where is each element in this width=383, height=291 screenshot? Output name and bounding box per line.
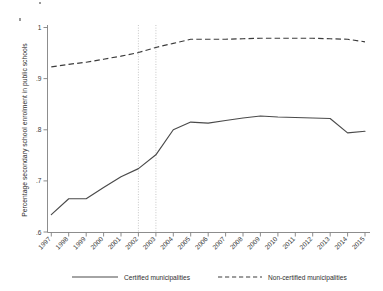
x-tick-label-2010: 2010 [263,235,279,251]
x-tick-label-2006: 2006 [194,235,210,251]
scan-artifact [19,18,21,21]
x-tick-label-2003: 2003 [141,235,157,251]
x-tick-label-2008: 2008 [228,235,244,251]
series-line-non-certified [51,38,365,67]
y-axis-title: Percentage secondary school enrolment in… [21,43,29,217]
x-tick-label-2001: 2001 [106,235,122,251]
x-tick-label-2015: 2015 [350,235,366,251]
x-tick-label-2014: 2014 [333,235,349,251]
x-tick-label-2005: 2005 [176,235,192,251]
y-tick-label-07: .7 [36,177,42,184]
y-tick-label-08: .8 [36,126,42,133]
x-tick-label-2012: 2012 [298,235,314,251]
x-tick-label-2013: 2013 [316,235,332,251]
x-tick-label-2007: 2007 [211,235,227,251]
x-tick-label-2009: 2009 [246,235,262,251]
y-tick-label-09: .9 [36,75,42,82]
x-tick-label-2002: 2002 [124,235,140,251]
line-chart: Percentage secondary school enrolment in… [0,0,383,291]
y-axis-ticks: 1 .9 .8 .7 .6 [36,24,48,236]
x-axis-ticks: 1997 1998 1999 2000 2001 2002 2003 2004 … [37,233,366,251]
x-tick-label-1999: 1999 [72,235,88,251]
scan-artifact [39,2,41,4]
legend-label-non-certified: Non-certified municipalities [268,274,347,282]
x-tick-label-2004: 2004 [159,235,175,251]
legend-label-certified: Certified municipalities [124,274,191,282]
chart-figure: Percentage secondary school enrolment in… [0,0,383,291]
series-line-certified [51,116,365,215]
x-tick-label-1998: 1998 [54,235,70,251]
chart-legend: Certified municipalities Non-certified m… [72,274,347,282]
y-tick-label-06: .6 [36,229,42,236]
x-tick-label-2011: 2011 [281,235,296,250]
x-tick-label-1997: 1997 [37,235,53,251]
y-tick-label-1: 1 [38,24,42,31]
x-tick-label-2000: 2000 [89,235,105,251]
